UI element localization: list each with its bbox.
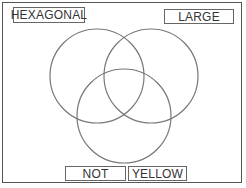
label-yellow: YELLOW (128, 166, 187, 181)
label-not: NOT (65, 166, 126, 181)
circle-bottom (77, 69, 171, 163)
label-large: LARGE (164, 9, 234, 24)
label-hexagonal: HEXAGONAL (13, 7, 85, 23)
circle-right (104, 29, 198, 123)
venn-diagram (0, 0, 246, 188)
circle-left (50, 29, 144, 123)
